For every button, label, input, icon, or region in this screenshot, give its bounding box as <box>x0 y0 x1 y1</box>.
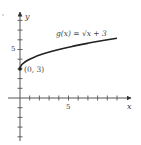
x-tick-label-5: 5 <box>66 103 70 111</box>
function-label: g(x) = √x + 3 <box>56 29 107 38</box>
x-axis-label: x <box>127 102 132 111</box>
point-marker <box>18 67 22 71</box>
y-tick-label-5: 5 <box>11 45 15 53</box>
function-graph: y x 5 5 (0, 3) g(x) = √x + 3 <box>0 0 141 145</box>
y-axis-label: y <box>24 12 30 21</box>
point-label: (0, 3) <box>24 65 44 74</box>
stray-mark <box>2 14 3 15</box>
graph-canvas: y x 5 5 (0, 3) g(x) = √x + 3 <box>0 0 141 145</box>
